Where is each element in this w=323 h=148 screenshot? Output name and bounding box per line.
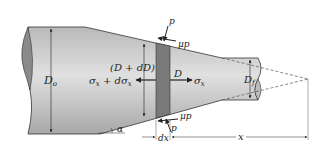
wire-drawing-diagram: Do (D + dD) σx + dσx D σx Df p μp p μp α… (0, 0, 323, 148)
label-dx: dx (158, 133, 169, 143)
friction-top-arrow (158, 38, 176, 41)
label-d: D (173, 68, 182, 79)
element-strip (156, 43, 170, 118)
label-mu-p-top: μp (178, 39, 190, 49)
label-p-top: p (169, 16, 175, 26)
friction-bottom-arrow (158, 119, 178, 121)
label-mu-p-bottom: μp (180, 111, 192, 121)
label-d-plus-dd: (D + dD) (110, 62, 155, 73)
label-x: x (238, 131, 244, 142)
label-p-bottom: p (171, 123, 177, 133)
label-alpha: α (117, 124, 123, 134)
